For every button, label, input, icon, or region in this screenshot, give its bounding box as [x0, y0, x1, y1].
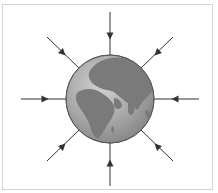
- gravity-diagram: [0, 0, 218, 193]
- arrowhead-icon: [107, 33, 114, 40]
- arrowhead-icon: [107, 160, 114, 167]
- arrow-from-left: [21, 96, 66, 103]
- arrow-from-right: [154, 96, 199, 103]
- arrow-from-bottom: [107, 143, 114, 186]
- globe-icon: [66, 55, 155, 143]
- arrow-from-top-left: [47, 37, 79, 68]
- arrowhead-icon: [42, 96, 49, 103]
- arrow-from-top: [107, 12, 114, 55]
- arrow-from-bottom-left: [47, 130, 79, 161]
- arrow-from-top-right: [141, 37, 173, 68]
- arrow-from-bottom-right: [141, 130, 173, 161]
- arrowhead-icon: [172, 96, 179, 103]
